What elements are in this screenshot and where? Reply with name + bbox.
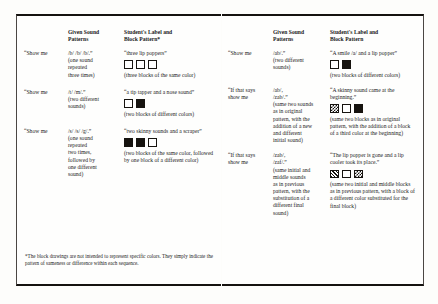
left-row3-student-note: (two blocks of the same color, followed …: [124, 150, 214, 164]
left-row1-prompt: “Show me: [24, 50, 48, 56]
right-row3-student-quote: “The lip popper is gone and a lip cooler…: [330, 152, 415, 166]
block-open-icon: [124, 60, 133, 69]
right-row3-prompt-l2: show me: [228, 159, 270, 166]
left-row3-given-note-l2: repeated: [68, 142, 120, 149]
right-header-prompt: [228, 29, 270, 50]
right-row3-given-note-l3: as in previous: [273, 181, 327, 188]
right-page-content: Given Sound Patterns Student's Label and…: [222, 16, 423, 284]
left-row2-given-sound: /t/ /m/.”: [68, 89, 120, 96]
right-header-student-line1: Student's Label and: [330, 29, 415, 36]
left-row1-student: “three lip poppers” (three blocks of the…: [124, 50, 214, 89]
left-header-student-line2: Block Pattern*: [124, 36, 214, 43]
left-header-given-line1: Given Sound: [68, 29, 120, 36]
right-table: Given Sound Patterns Student's Label and…: [222, 16, 423, 225]
right-row1-prompt: “Show me: [228, 50, 252, 56]
right-row3-student: “The lip popper is gone and a lip cooler…: [330, 152, 415, 224]
right-row2-prompt-l1: “If that says: [228, 87, 270, 94]
right-row3-given-sound-l2: /zaf/.”: [273, 159, 327, 166]
table-row: “Show me: [228, 50, 270, 87]
right-row3-given: /zab/, /zaf/.” (same initial and middle …: [273, 152, 327, 224]
table-row: “Show me: [24, 89, 64, 128]
right-row2-student-note: (same two blocks as in original pattern,…: [330, 116, 415, 137]
left-row1-given: /b/ /b/ /b/.” (one sound repeated three …: [68, 50, 120, 89]
right-header-given-sound: Given Sound Patterns: [273, 29, 327, 50]
block-solid-icon: [124, 138, 133, 147]
right-row3-given-note-l7: sound): [273, 210, 327, 217]
left-row1-student-quote: “three lip poppers”: [124, 50, 214, 57]
right-row1-student: “A smile /a/ and a lip popper” (two bloc…: [330, 50, 415, 87]
right-row3-given-note-l1: (same initial and: [273, 167, 327, 174]
block-open-icon: [342, 170, 351, 179]
left-row2-given-note-l1: (two different: [68, 96, 120, 103]
left-page: Given Sound Patterns Student's Label and…: [16, 14, 221, 286]
left-row3-given-note-l3: two times,: [68, 149, 120, 156]
right-row2-given-sound-l1: /ab/,: [273, 87, 327, 94]
right-page: Given Sound Patterns Student's Label and…: [222, 14, 424, 286]
left-row2-student-note: (two blocks of different colors): [124, 111, 214, 118]
left-row1-block-pattern: [124, 60, 214, 69]
block-checker-icon: [354, 170, 363, 179]
table-row: “Show me: [24, 128, 64, 188]
right-header-given-line1: Given Sound: [273, 29, 327, 36]
right-row1-student-quote: “A smile /a/ and a lip popper”: [330, 50, 415, 57]
right-row2-given-note-l3: pattern, with the: [273, 116, 327, 123]
left-header-student-line1: Student's Label and: [124, 29, 214, 36]
block-solid-icon: [354, 104, 363, 113]
right-header-student-line2: Block Pattern: [330, 36, 415, 43]
right-row2-prompt-l2: show me: [228, 94, 270, 101]
left-table: Given Sound Patterns Student's Label and…: [17, 16, 221, 188]
right-row2-student-quote: “A skinny sound came at the beginning.”: [330, 87, 415, 101]
block-solid-icon: [136, 99, 145, 108]
right-row3-given-note-l4: pattern, with the: [273, 188, 327, 195]
left-row2-given-note-l2: sounds): [68, 103, 120, 110]
right-row3-given-note-l2: middle sounds: [273, 174, 327, 181]
block-open-icon: [148, 138, 157, 147]
left-row3-given-note-l5: one different: [68, 164, 120, 171]
right-row1-given-note-l1: (two different: [273, 57, 327, 64]
right-row1-student-note: (two blocks of different colors): [330, 72, 415, 79]
left-row1-given-note-l1: (one sound: [68, 57, 120, 64]
right-row1-given-note-l2: sounds): [273, 64, 327, 71]
left-header-prompt: [24, 29, 64, 50]
right-row2-given-note-l6: initial sound): [273, 137, 327, 144]
right-row2-given: /ab/, /zab/.” (same two sounds as in ori…: [273, 87, 327, 152]
block-open-icon: [342, 104, 351, 113]
right-header-student-label: Student's Label and Block Pattern: [330, 29, 415, 50]
right-row3-given-sound-l1: /zab/,: [273, 152, 327, 159]
block-open-icon: [136, 60, 145, 69]
block-open-icon: [124, 99, 133, 108]
left-row2-student-quote: “a tip tapper and a nose sound”: [124, 89, 214, 96]
left-row2-block-pattern: [124, 99, 214, 108]
left-header-given-line2: Patterns: [68, 36, 120, 43]
left-page-content: Given Sound Patterns Student's Label and…: [17, 16, 221, 284]
right-row2-given-note-l4: addition of a new: [273, 123, 327, 130]
left-row3-student-quote: “two skinny sounds and a scraper”: [124, 128, 214, 135]
left-row2-given: /t/ /m/.” (two different sounds): [68, 89, 120, 128]
right-row2-given-note-l5: and different: [273, 130, 327, 137]
left-row2-prompt: “Show me: [24, 89, 48, 95]
block-hatch-icon: [330, 170, 339, 179]
right-row2-given-sound-l2: /zab/.”: [273, 94, 327, 101]
left-row3-given-note-l4: followed by: [68, 157, 120, 164]
left-header-student-label: Student's Label and Block Pattern*: [124, 29, 214, 50]
block-open-icon: [148, 60, 157, 69]
left-row3-student: “two skinny sounds and a scraper” (two b…: [124, 128, 214, 188]
block-solid-icon: [136, 138, 145, 147]
footnote-text: *The block drawings are not intended to …: [25, 253, 213, 266]
right-row2-given-note-l1: (same two sounds: [273, 101, 327, 108]
left-row1-given-note-l3: three times): [68, 72, 120, 79]
table-row: “If that says show me: [228, 87, 270, 152]
block-open-icon: [330, 60, 339, 69]
table-row: “If that says show me: [228, 152, 270, 224]
left-row1-student-note: (three blocks of the same color): [124, 72, 214, 79]
left-row3-given: /s/ /s/ /g/.” (one sound repeated two ti…: [68, 128, 120, 188]
left-row3-block-pattern: [124, 138, 214, 147]
left-row3-given-sound: /s/ /s/ /g/.”: [68, 128, 120, 135]
right-row3-block-pattern: [330, 170, 415, 179]
right-row2-block-pattern: [330, 104, 415, 113]
right-row3-given-note-l5: substitution of a: [273, 195, 327, 202]
book-spread: Given Sound Patterns Student's Label and…: [0, 0, 438, 304]
block-solid-icon: [342, 60, 351, 69]
right-row2-given-note-l2: as in original: [273, 108, 327, 115]
left-row1-given-note-l2: repeated: [68, 64, 120, 71]
